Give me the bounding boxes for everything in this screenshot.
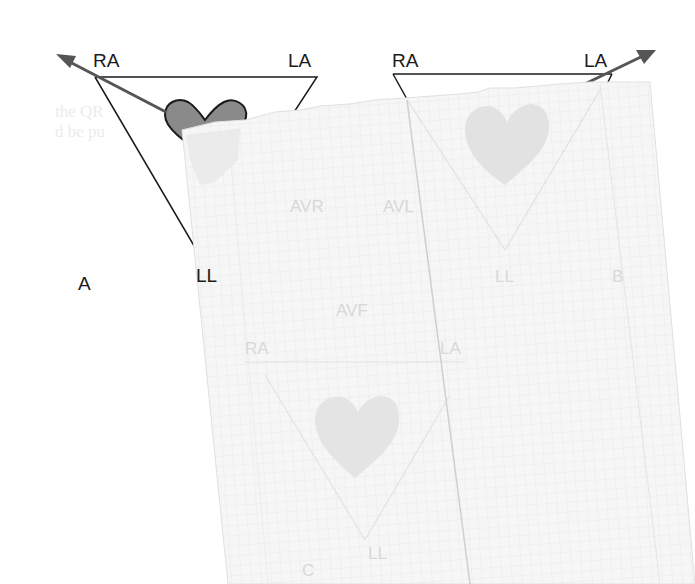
panel-a-ll-label: LL (196, 266, 217, 285)
diagram-canvas: the QR d be pu RA LA A LL RA LA LL B AVL… (0, 0, 695, 584)
panel-c-label: C (302, 562, 314, 579)
bleed-through-text-line-2: d be pu (55, 123, 105, 142)
panel-a-label: A (78, 274, 91, 293)
panel-c-avf-label: AVF (336, 302, 368, 319)
bleed-through-text-line-1: the QR (55, 103, 104, 122)
panel-c-la-label: LA (440, 340, 461, 357)
panel-b-ra-label: RA (392, 51, 418, 70)
diagram-graphics (0, 0, 695, 584)
panel-b-label: B (612, 268, 623, 285)
panel-c-ra-label: RA (245, 340, 269, 357)
panel-a-ra-label: RA (93, 51, 119, 70)
panel-c-ll-label: LL (368, 545, 387, 562)
panel-b-la-label: LA (584, 51, 607, 70)
panel-b-ll-label: LL (495, 268, 514, 285)
panel-a-la-label: LA (288, 51, 311, 70)
panel-b-avl-label: AVL (383, 198, 414, 215)
graph-paper-overlay (182, 82, 695, 584)
panel-c-avr-label: AVR (290, 198, 324, 215)
